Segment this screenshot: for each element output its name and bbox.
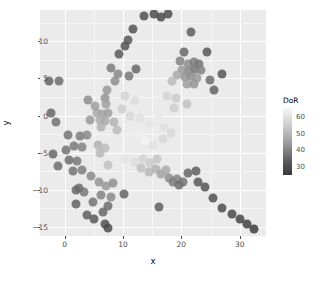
data-point <box>163 92 172 101</box>
data-point <box>154 114 163 123</box>
gridline-x <box>181 10 182 236</box>
data-point <box>83 130 92 139</box>
x-axis-title: x <box>150 256 155 266</box>
plot-panel <box>40 10 266 236</box>
data-point <box>64 130 73 139</box>
gridline-y-minor <box>40 23 266 24</box>
legend-tick-label: 50 <box>296 130 305 138</box>
y-tick-label: 5 <box>43 74 48 83</box>
data-point <box>149 141 158 150</box>
data-point <box>132 65 141 74</box>
data-point <box>99 208 108 217</box>
data-point <box>54 162 63 171</box>
data-point <box>61 145 70 154</box>
legend-tick-mark <box>292 134 295 135</box>
data-point <box>108 179 117 188</box>
data-point <box>48 150 57 159</box>
y-tick-label: 0 <box>43 111 48 120</box>
data-point <box>172 93 181 102</box>
data-point <box>55 76 64 85</box>
data-point <box>85 116 94 125</box>
y-tick-mark <box>38 41 41 42</box>
data-point <box>124 72 133 81</box>
data-point <box>101 100 110 109</box>
legend-colorbar <box>283 107 292 175</box>
data-point <box>205 75 214 84</box>
data-point <box>145 119 154 128</box>
data-point <box>201 182 210 191</box>
x-tick-mark <box>240 236 241 239</box>
data-point <box>158 135 167 144</box>
data-point <box>83 95 92 104</box>
data-point <box>170 104 179 113</box>
data-point <box>179 177 188 186</box>
data-point <box>191 166 200 175</box>
gridline-y-minor <box>40 97 266 98</box>
data-point <box>97 122 106 131</box>
y-tick-mark <box>38 116 41 117</box>
x-tick-label: 0 <box>62 240 67 249</box>
data-point <box>164 10 173 19</box>
data-point <box>217 69 226 78</box>
data-point <box>109 118 118 127</box>
data-point <box>120 92 129 101</box>
data-point <box>128 143 137 152</box>
scatter-plot-figure: −15−10−505100102030 x y DoR 30405060 <box>0 0 320 285</box>
legend-tick-label: 60 <box>296 113 305 121</box>
data-point <box>117 104 126 113</box>
x-tick-mark <box>181 236 182 239</box>
y-tick-label: −10 <box>32 185 48 194</box>
gridline-y-minor <box>40 60 266 61</box>
data-point <box>89 214 98 223</box>
data-point <box>78 165 87 174</box>
data-point <box>114 49 123 58</box>
y-tick-mark <box>38 190 41 191</box>
data-point <box>189 80 198 89</box>
data-point <box>210 86 219 95</box>
gridline-y-minor <box>40 134 266 135</box>
data-point <box>153 155 162 164</box>
y-tick-mark <box>38 153 41 154</box>
x-tick-label: 30 <box>235 240 245 249</box>
gridline-x <box>65 10 66 236</box>
data-point <box>183 99 192 108</box>
data-point <box>71 200 80 209</box>
legend-tick-mark <box>292 117 295 118</box>
data-point <box>72 156 81 165</box>
data-point <box>167 77 176 86</box>
legend-title: DoR <box>283 96 319 105</box>
gridline-x <box>240 10 241 236</box>
y-axis-title: y <box>1 120 11 125</box>
x-tick-label: 10 <box>118 240 128 249</box>
data-point <box>131 96 140 105</box>
legend-tick-label: 40 <box>296 146 305 154</box>
x-tick-mark <box>65 236 66 239</box>
x-tick-mark <box>123 236 124 239</box>
data-point <box>179 47 188 56</box>
data-point <box>113 126 122 135</box>
data-point <box>155 203 164 212</box>
data-point <box>121 41 130 50</box>
data-point <box>78 142 87 151</box>
legend: DoR 30405060 <box>283 96 319 175</box>
y-tick-mark <box>38 78 41 79</box>
data-point <box>120 189 129 198</box>
y-tick-label: −15 <box>32 223 48 232</box>
data-point <box>121 155 130 164</box>
legend-tick-label: 30 <box>296 163 305 171</box>
legend-body: 30405060 <box>283 107 319 175</box>
data-point <box>132 129 141 138</box>
data-point <box>107 193 116 202</box>
data-point <box>139 11 148 20</box>
data-point <box>135 113 144 122</box>
data-point <box>72 185 81 194</box>
data-point <box>167 128 176 137</box>
data-point <box>96 149 105 158</box>
x-tick-label: 20 <box>177 240 187 249</box>
data-point <box>104 160 113 169</box>
data-point <box>107 63 116 72</box>
data-point <box>125 111 134 120</box>
data-point <box>203 48 212 57</box>
data-point <box>90 101 99 110</box>
data-point <box>114 69 123 78</box>
